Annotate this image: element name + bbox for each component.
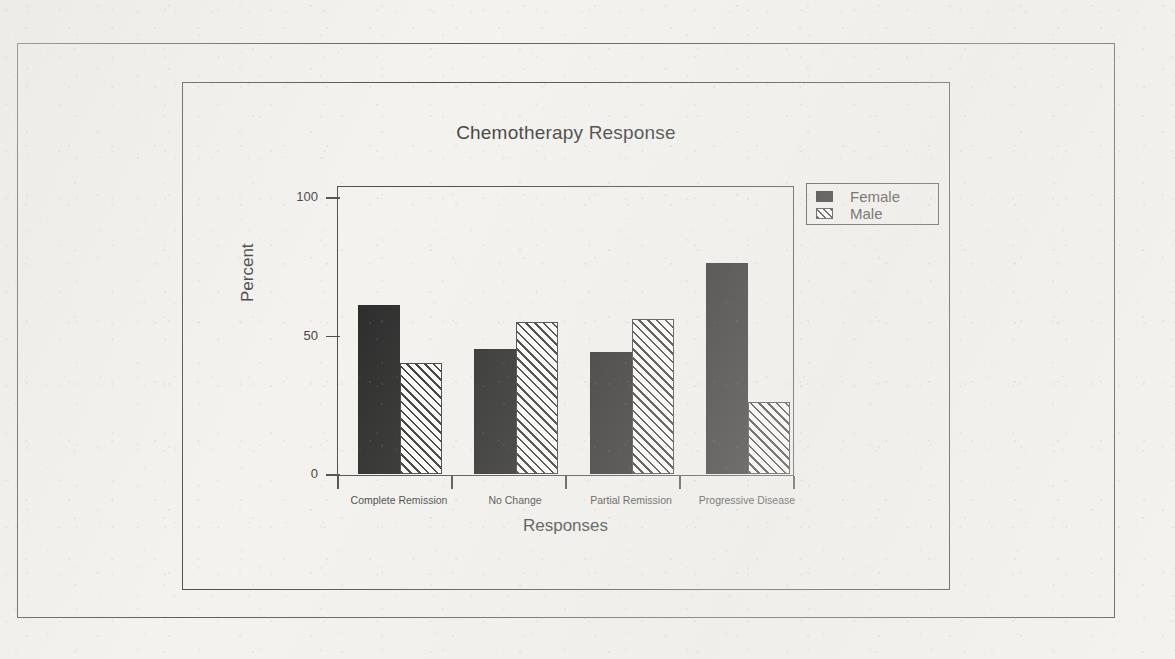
bar-female-1 — [474, 349, 516, 474]
plot-area — [337, 186, 794, 476]
legend-label: Male — [850, 205, 883, 222]
y-axis: 050100 — [270, 186, 340, 476]
legend-item-male[interactable]: Male — [816, 205, 938, 222]
legend-swatch-male-icon — [816, 208, 833, 219]
legend-item-female[interactable]: Female — [816, 188, 938, 205]
y-tick-mark — [326, 336, 340, 338]
x-tick-label-1: No Change — [488, 494, 541, 506]
x-tick-mark — [451, 476, 453, 489]
x-tick-label-3: Progressive Disease — [699, 494, 795, 506]
x-tick-mark — [679, 476, 681, 489]
y-axis-title: Percent — [238, 243, 258, 302]
bar-male-0 — [400, 363, 442, 474]
x-tick-label-0: Complete Remission — [351, 494, 448, 506]
bar-female-2 — [590, 352, 632, 474]
bar-female-0 — [358, 305, 400, 474]
legend-swatch-female-icon — [816, 191, 833, 202]
bar-female-3 — [706, 263, 748, 474]
y-tick-label: 0 — [311, 466, 318, 481]
bar-group — [474, 187, 558, 475]
x-tick-label-2: Partial Remission — [590, 494, 672, 506]
chart-title: Chemotherapy Response — [182, 122, 950, 144]
bar-group — [590, 187, 674, 475]
x-tick-mark — [793, 476, 795, 489]
legend-label: Female — [850, 188, 900, 205]
bar-group — [358, 187, 442, 475]
y-tick-mark — [326, 197, 340, 199]
bar-male-2 — [632, 319, 674, 474]
chart-legend: FemaleMale — [806, 183, 939, 225]
x-axis-title: Responses — [337, 516, 794, 536]
y-tick-label: 100 — [296, 189, 318, 204]
y-tick-label: 50 — [304, 328, 318, 343]
bar-male-1 — [516, 322, 558, 474]
x-tick-mark — [337, 476, 339, 489]
bar-male-3 — [748, 402, 790, 474]
bars-layer — [338, 187, 793, 475]
x-tick-mark — [565, 476, 567, 489]
bar-group — [706, 187, 790, 475]
